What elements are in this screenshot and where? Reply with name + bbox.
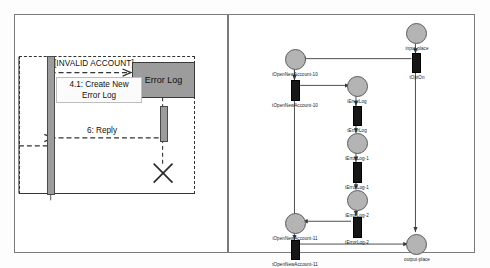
message-label-reply: 6: Reply — [87, 125, 117, 136]
message-label-line2: Error Log — [60, 90, 138, 101]
place-iOpenNewAccount-11[interactable] — [285, 213, 306, 234]
error-log-activation-bar — [160, 106, 168, 142]
label-place-iOpenNewAccount-10: iOpenNewAccount-10 — [272, 72, 318, 77]
place-iErrorLog-1[interactable] — [347, 133, 368, 154]
petri-net-panel: input-place iOpenNewAccount-10 iErrorLog… — [228, 14, 475, 253]
transition-tErrorLog-1[interactable] — [353, 162, 362, 183]
label-transition-tOpenNewAccount-10: tOpenNewAccount-10 — [272, 103, 318, 108]
message-label-line1: 4.1: Create New — [60, 79, 138, 90]
label-place-iOpenNewAccount-11: iOpenNewAccount-11 — [272, 236, 317, 241]
screenshot-root: [INVALID ACCOUNT] Error Log 4.1: Create … — [0, 0, 490, 268]
error-log-object-label: Error Log — [145, 75, 183, 85]
place-iErrorLog[interactable] — [347, 76, 368, 97]
label-place-iErrorLog-2: iErrorLog-2 — [345, 213, 369, 218]
fragment-guard-label: [INVALID ACCOUNT] — [54, 59, 134, 68]
transition-tErrorLog[interactable] — [353, 106, 362, 126]
transition-tOptOn[interactable] — [412, 53, 421, 73]
label-place-input-place: input-place — [405, 46, 428, 51]
place-iErrorLog-2[interactable] — [347, 190, 368, 211]
sequence-diagram-panel: [INVALID ACCOUNT] Error Log 4.1: Create … — [14, 14, 228, 253]
label-transition-tErrorLog-2: tErrorLog-2 — [345, 240, 369, 245]
place-input-place[interactable] — [406, 23, 427, 44]
label-transition-tOpenNewAccount-11: tOpenNewAccount-11 — [272, 262, 318, 267]
transition-tOpenNewAccount-11[interactable] — [291, 240, 300, 260]
label-place-output-place: output-place — [404, 257, 430, 262]
label-place-iErrorLog: iErrorLog — [347, 99, 366, 104]
place-iOpenNewAccount-10[interactable] — [285, 49, 306, 70]
actor-activation-bar — [47, 56, 55, 195]
transition-tOpenNewAccount-10[interactable] — [291, 80, 300, 101]
transition-tErrorLog-2[interactable] — [353, 217, 362, 238]
place-output-place[interactable] — [406, 234, 427, 255]
label-transition-tErrorLog: tErrorLog — [347, 128, 367, 133]
message-label-create-error-log: 4.1: Create New Error Log — [56, 77, 142, 103]
label-place-iErrorLog-1: iErrorLog-1 — [345, 156, 369, 161]
label-transition-tErrorLog-1: tErrorLog-1 — [345, 185, 369, 190]
label-transition-tOptOn: tOptOn — [409, 75, 424, 80]
